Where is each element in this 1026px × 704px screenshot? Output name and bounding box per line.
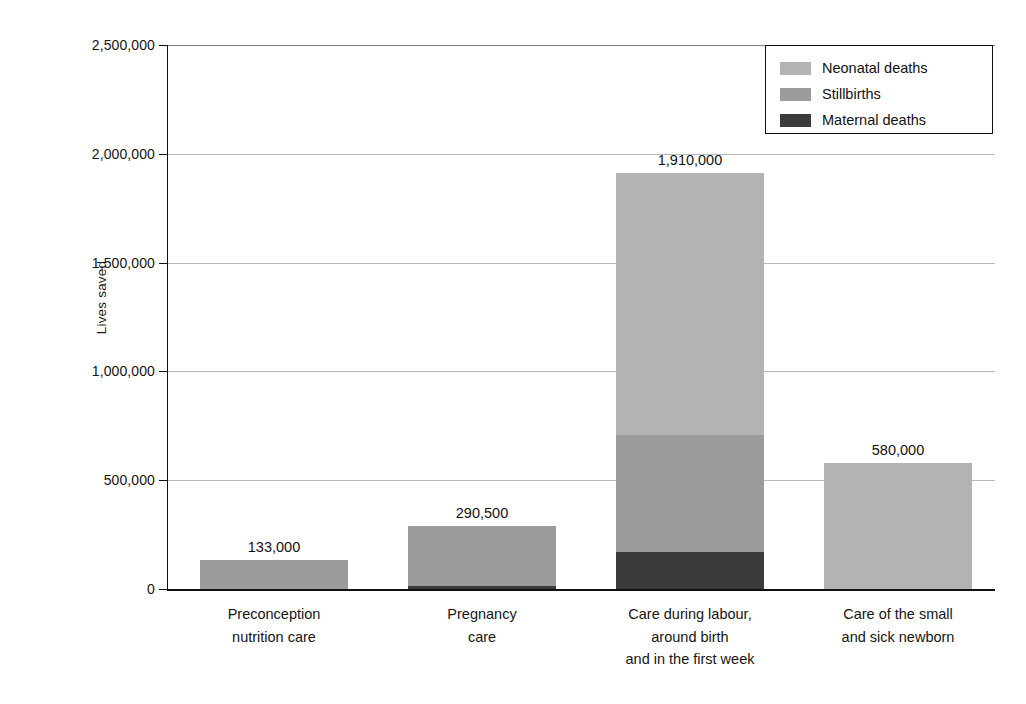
bar-segment-neonatal-deaths [616, 173, 764, 434]
bar-value-label: 580,000 [784, 442, 1012, 458]
y-axis-tick-label: 1,000,000 [15, 364, 155, 378]
y-axis-tick [159, 263, 167, 264]
y-axis-tick-label: 2,000,000 [15, 147, 155, 161]
x-axis-line [167, 589, 995, 591]
chart-legend: Neonatal deathsStillbirthsMaternal death… [765, 45, 993, 134]
legend-color-swatch [780, 114, 811, 127]
bar-segment-neonatal-deaths [824, 463, 972, 589]
y-axis-tick-label: 1,500,000 [15, 256, 155, 270]
legend-item[interactable]: Neonatal deaths [766, 55, 992, 81]
y-axis-line [167, 45, 168, 590]
category-label-line: around birth [590, 626, 790, 649]
bar-stack: 290,500 [408, 526, 556, 589]
category-label-line: Care of the small [798, 603, 998, 626]
category-label-line: care [382, 626, 582, 649]
bar-segment-stillbirths [408, 526, 556, 586]
bar-value-label: 290,500 [368, 505, 596, 521]
x-axis-category-label: Care of the smalland sick newborn [798, 603, 998, 648]
x-axis-category-label: Pregnancycare [382, 603, 582, 648]
bar-value-label: 133,000 [160, 539, 388, 555]
category-label-line: Preconception [174, 603, 374, 626]
legend-color-swatch [780, 88, 811, 101]
y-axis-tick [159, 371, 167, 372]
y-axis-tick [159, 480, 167, 481]
bar-stack: 580,000 [824, 463, 972, 589]
bar-segment-stillbirths [616, 435, 764, 553]
y-axis-tick [159, 45, 167, 46]
x-axis-category-label: Care during labour,around birthand in th… [590, 603, 790, 671]
bar-stack: 1,910,000 [616, 173, 764, 589]
chart-figure: Lives saved 0500,0001,000,0001,500,0002,… [0, 0, 1026, 704]
category-label-line: and sick newborn [798, 626, 998, 649]
y-axis-tick [159, 154, 167, 155]
y-axis-title: Lives saved [94, 218, 109, 378]
y-axis-tick-label: 2,500,000 [15, 38, 155, 52]
legend-item-label: Neonatal deaths [822, 60, 928, 76]
category-label-line: Care during labour, [590, 603, 790, 626]
legend-item[interactable]: Stillbirths [766, 81, 992, 107]
legend-item[interactable]: Maternal deaths [766, 107, 992, 133]
y-axis-tick [159, 589, 167, 590]
category-label-line: and in the first week [590, 648, 790, 671]
y-axis-tick-label: 500,000 [15, 473, 155, 487]
bar-value-label: 1,910,000 [576, 152, 804, 168]
legend-color-swatch [780, 62, 811, 75]
category-label-line: Pregnancy [382, 603, 582, 626]
bar-segment-stillbirths [200, 560, 348, 589]
legend-item-label: Stillbirths [822, 86, 881, 102]
bar-segment-maternal-deaths [616, 552, 764, 589]
gridline [168, 263, 995, 264]
legend-item-label: Maternal deaths [822, 112, 926, 128]
gridline [168, 371, 995, 372]
x-axis-category-label: Preconceptionnutrition care [174, 603, 374, 648]
category-label-line: nutrition care [174, 626, 374, 649]
y-axis-tick-label: 0 [15, 582, 155, 596]
bar-stack: 133,000 [200, 560, 348, 589]
